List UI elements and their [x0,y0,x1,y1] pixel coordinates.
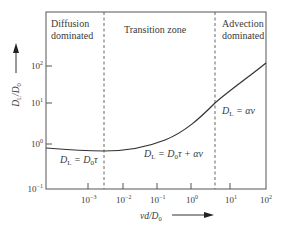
svg-text:10−1: 10−1 [150,194,165,205]
svg-text:dominated: dominated [51,30,93,41]
chart: Diffusion dominated Transition zone Adve… [0,0,285,229]
svg-text:10−1: 10−1 [28,183,43,194]
svg-text:Advection: Advection [222,18,264,29]
y-axis-label: DL/D0 [11,83,22,108]
svg-text:10−2: 10−2 [116,194,131,205]
svg-text:dominated: dominated [222,30,264,41]
svg-text:10−3: 10−3 [81,194,96,205]
region-label-advection-2: dominated [222,30,264,41]
eq-transition: DL = D0τ + αv [143,148,204,161]
y-ticks [46,66,52,144]
x-axis-label: vd/D0 [140,211,162,222]
eq-diffusion: DL = D0τ [59,154,98,167]
y-tick-labels: 102 101 100 10−1 [28,60,43,194]
svg-text:102: 102 [260,194,272,205]
x-tick-labels: 10−3 10−2 10−1 100 101 102 [81,194,272,205]
svg-text:Transition zone: Transition zone [124,24,187,35]
x-ticks [88,183,230,189]
svg-text:100: 100 [31,138,43,149]
y-axis-arrow-head [13,43,19,53]
svg-text:101: 101 [225,194,237,205]
region-label-advection-1: Advection [222,18,264,29]
eq-advection: DL = αv [221,105,256,118]
svg-text:100: 100 [186,194,198,205]
region-label-diffusion-2: dominated [51,30,93,41]
region-label-diffusion-1: Diffusion [51,18,89,29]
region-label-transition: Transition zone [124,24,187,35]
svg-text:101: 101 [31,97,43,108]
x-axis-arrow-head [204,212,214,218]
svg-text:Diffusion: Diffusion [51,18,89,29]
svg-text:102: 102 [31,60,43,71]
